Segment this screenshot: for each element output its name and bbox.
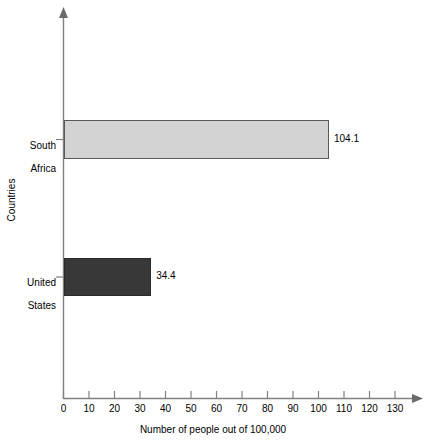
bar-value-label-south-africa: 104.1 bbox=[334, 134, 359, 144]
y-axis-arrowhead-icon bbox=[59, 7, 68, 18]
y-axis-title: Countries bbox=[7, 165, 17, 235]
category-label-line-1: United bbox=[27, 277, 56, 288]
x-axis-ticks bbox=[64, 391, 396, 399]
x-axis-title: Number of people out of 100,000 bbox=[0, 425, 426, 435]
bar-united-states bbox=[64, 258, 152, 296]
x-axis-arrowhead-icon bbox=[412, 394, 423, 403]
category-label-line-2: States bbox=[28, 300, 56, 311]
x-tick-label-130: 130 bbox=[380, 404, 410, 414]
category-label-line-2: Africa bbox=[30, 163, 56, 174]
bar-south-africa bbox=[64, 120, 329, 159]
bar-value-label-united-states: 34.4 bbox=[156, 271, 175, 281]
y-axis-ticks bbox=[56, 140, 64, 278]
chart-axes bbox=[0, 0, 426, 440]
category-label-line-1: South bbox=[30, 140, 56, 151]
bar-chart: 104.1 34.4 South Africa United States Co… bbox=[0, 0, 426, 440]
category-label-united-states: United States bbox=[8, 265, 56, 311]
